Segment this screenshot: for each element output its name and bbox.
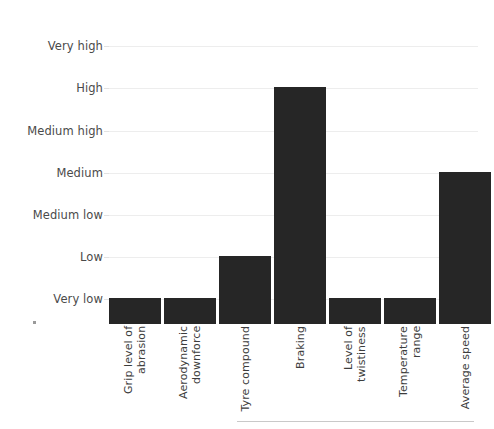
x-tick-label-average-speed: Average speed: [439, 326, 491, 418]
bar-series: [109, 0, 478, 324]
x-tick-label-level-of-twistiness: Level of twistiness: [329, 326, 381, 418]
bar-level-of-twistiness[interactable]: [329, 298, 381, 324]
bar-average-speed[interactable]: [439, 172, 491, 324]
x-tick-label-temperature-range: Temperature range: [384, 326, 436, 418]
page-artifact-dot: [33, 321, 36, 324]
bar-grip-level-of-abrasion[interactable]: [109, 298, 161, 324]
x-tick-label-braking: Braking: [274, 326, 326, 418]
x-tick-label-aerodynamic-downforce: Aerodynamic downforce: [164, 326, 216, 418]
bar-braking[interactable]: [274, 87, 326, 324]
bar-aerodynamic-downforce[interactable]: [164, 298, 216, 324]
bar-chart: Very high High Medium high Medium Medium…: [0, 0, 494, 429]
bar-temperature-range[interactable]: [384, 298, 436, 324]
bottom-divider-rule: [237, 421, 474, 422]
y-tick-label-very-low: Very low: [0, 292, 103, 306]
y-tick-label-low: Low: [0, 250, 103, 264]
x-tick-label-tyre-compound: Tyre compound: [219, 326, 271, 418]
y-axis-labels: Very high High Medium high Medium Medium…: [0, 0, 103, 429]
y-tick-label-medium: Medium: [0, 166, 103, 180]
y-tick-label-very-high: Very high: [0, 39, 103, 53]
x-axis-labels: Grip level of abrasion Aerodynamic downf…: [109, 326, 478, 421]
bar-tyre-compound[interactable]: [219, 256, 271, 324]
y-tick-label-high: High: [0, 81, 103, 95]
y-tick-label-medium-high: Medium high: [0, 124, 103, 138]
x-tick-label-grip-level-of-abrasion: Grip level of abrasion: [109, 326, 161, 418]
y-tick-label-medium-low: Medium low: [0, 208, 103, 222]
